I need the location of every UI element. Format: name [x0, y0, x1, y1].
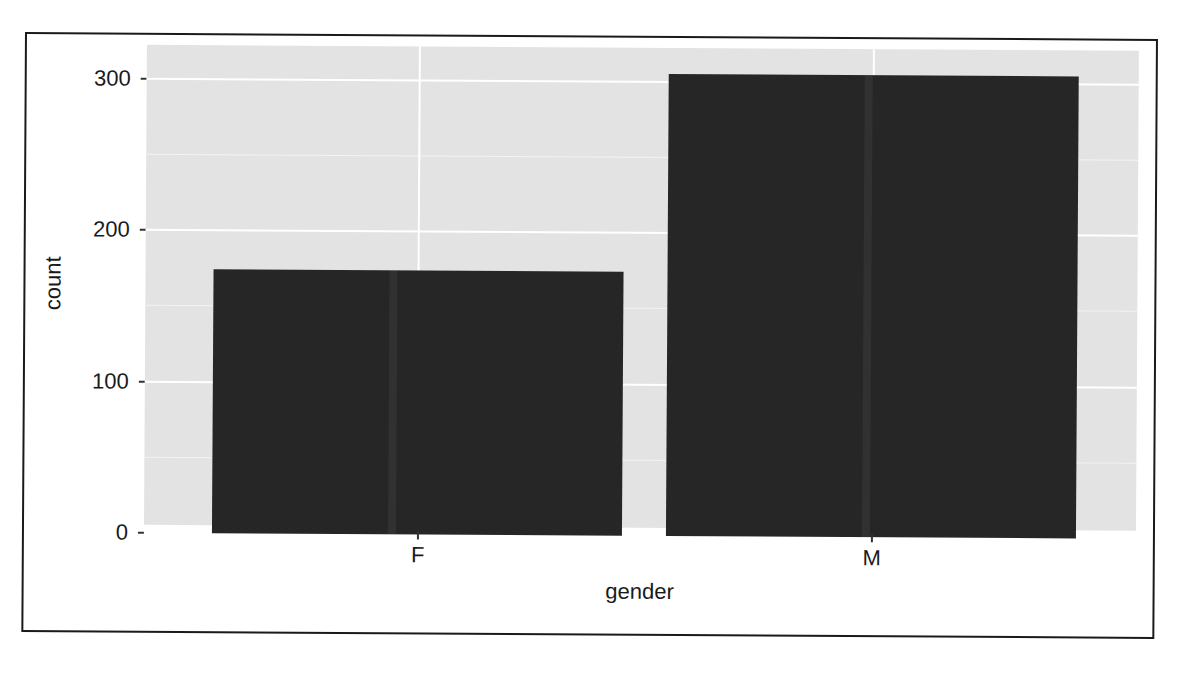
figure-frame: count 300 200 100 0 F M gender [21, 32, 1158, 639]
bar-M-highlight [862, 75, 873, 537]
x-tick-label-F: F [398, 544, 438, 566]
y-tick-label-300: 300 [71, 67, 131, 89]
y-tick-label-200: 200 [70, 218, 130, 240]
y-tick-label-0: 0 [68, 521, 128, 543]
x-tick-F [417, 531, 419, 539]
bar-F [212, 269, 624, 535]
x-axis-title: gender [540, 579, 740, 604]
x-tick-label-M: M [852, 547, 892, 569]
y-tick-label-100: 100 [69, 370, 129, 392]
bar-M [666, 74, 1079, 538]
bar-F-highlight [388, 270, 398, 534]
x-tick-M [871, 534, 873, 542]
y-axis: count 300 200 100 0 [23, 34, 147, 635]
plot-panel [144, 45, 1139, 531]
y-axis-title: count [41, 233, 66, 333]
